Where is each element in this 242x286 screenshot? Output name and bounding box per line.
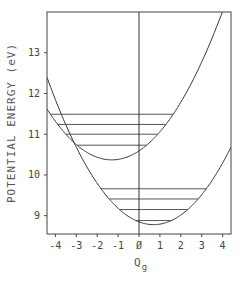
y-axis-ticks: 910111213	[28, 47, 47, 221]
x-tick-label: 4	[220, 240, 226, 251]
x-axis-ticks: -4-3-2-1Ø1234	[49, 234, 225, 251]
x-tick-label: 1	[157, 240, 163, 251]
vibrational-levels-layer	[50, 114, 206, 220]
x-tick-label: 2	[178, 240, 184, 251]
x-tick-label: -2	[91, 240, 103, 251]
x-tick-label: 3	[199, 240, 205, 251]
x-axis-title: Qg	[134, 256, 148, 272]
y-tick-label: 10	[28, 169, 40, 180]
y-axis-title: POTENTIAL ENERGY (eV)	[5, 43, 18, 203]
x-tick-label: Ø	[136, 240, 142, 251]
y-tick-label: 11	[28, 129, 40, 140]
x-tick-label: -4	[49, 240, 61, 251]
x-tick-label: -1	[112, 240, 124, 251]
x-tick-label: -3	[70, 240, 82, 251]
y-tick-label: 13	[28, 47, 40, 58]
potential-energy-chart: -4-3-2-1Ø1234 910111213 POTENTIAL ENERGY…	[0, 0, 242, 286]
y-tick-label: 9	[34, 210, 40, 221]
y-tick-label: 12	[28, 88, 40, 99]
